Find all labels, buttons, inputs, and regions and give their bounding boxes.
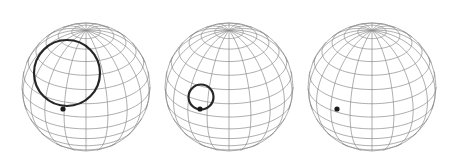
sphere-3 — [308, 23, 436, 151]
base-point — [60, 106, 65, 111]
sphere-1 — [22, 23, 150, 151]
diagram-canvas — [0, 0, 454, 166]
sphere-2 — [165, 23, 293, 151]
base-point — [334, 106, 339, 111]
base-point — [197, 106, 202, 111]
